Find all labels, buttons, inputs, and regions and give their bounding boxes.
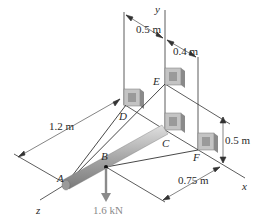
bracket-d xyxy=(124,89,144,109)
point-c-label: C xyxy=(162,138,169,149)
z-axis-label: z xyxy=(36,205,40,216)
dim-top-left-label: 0.5 m xyxy=(136,24,161,35)
point-b-label: B xyxy=(101,151,108,162)
dim-height-label: 0.5 m xyxy=(225,135,250,146)
point-f-label: F xyxy=(193,152,200,163)
point-d-label: D xyxy=(119,111,127,122)
ref-line-b-bottom xyxy=(106,167,165,202)
bracket-e xyxy=(165,68,185,88)
dim-ad-label: 1.2 m xyxy=(49,121,74,132)
point-e-label: E xyxy=(153,76,160,87)
dim-top-right-label: 0.4 m xyxy=(173,46,198,57)
ref-line-d-c xyxy=(125,105,165,130)
bracket-f xyxy=(198,133,218,153)
force-arrow xyxy=(101,168,111,202)
y-axis-label: y xyxy=(155,4,160,15)
structure-diagram xyxy=(0,0,258,221)
bracket-c xyxy=(165,113,185,133)
dimension-lines xyxy=(18,15,226,200)
x-axis-label: x xyxy=(242,181,247,192)
point-a-label: A xyxy=(57,173,64,184)
force-label: 1.6 kN xyxy=(93,205,123,216)
dim-bottom-label: 0.75 m xyxy=(178,175,209,186)
